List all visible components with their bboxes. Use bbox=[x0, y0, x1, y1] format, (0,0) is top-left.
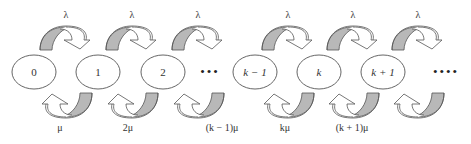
backward-transition-arrow bbox=[329, 93, 379, 118]
state-label: 2 bbox=[160, 66, 166, 78]
backward-transition-arrow bbox=[264, 93, 314, 118]
service-rate-label: kμ bbox=[280, 122, 290, 133]
state-node-sk: k bbox=[297, 55, 341, 89]
state-node-s0: 0 bbox=[12, 55, 56, 89]
service-rate-label: 2μ bbox=[123, 122, 133, 133]
state-node-skp1: k + 1 bbox=[361, 55, 405, 89]
state-label: k + 1 bbox=[371, 66, 394, 78]
arrival-rate-label: λ bbox=[64, 9, 69, 20]
state-node-s1: 1 bbox=[76, 55, 120, 89]
forward-transition-arrow bbox=[172, 26, 222, 50]
state-label: 0 bbox=[31, 66, 37, 78]
state-label: k − 1 bbox=[243, 66, 266, 78]
arrival-rate-label: λ bbox=[196, 9, 201, 20]
ellipsis-indicator: •••• bbox=[433, 64, 459, 79]
backward-transition-arrow bbox=[42, 93, 92, 118]
state-label: 1 bbox=[95, 66, 101, 78]
state-node-skm1: k − 1 bbox=[233, 55, 277, 89]
forward-transition-arrow bbox=[327, 26, 377, 50]
arrival-rate-label: λ bbox=[286, 9, 291, 20]
forward-transition-arrow bbox=[262, 26, 312, 50]
backward-transition-arrow bbox=[108, 93, 158, 118]
diagram-canvas: 012•••k − 1kk + 1••••λλλλλλμ2μ(k − 1)μkμ… bbox=[0, 0, 471, 144]
service-rate-label: (k + 1)μ bbox=[336, 122, 369, 134]
backward-transition-arrow bbox=[394, 93, 444, 118]
forward-transition-arrow bbox=[40, 26, 90, 50]
arrival-rate-label: λ bbox=[351, 9, 356, 20]
ellipsis-indicator: ••• bbox=[200, 64, 220, 79]
service-rate-label: (k − 1)μ bbox=[206, 122, 239, 134]
forward-transition-arrow bbox=[106, 26, 156, 50]
arrival-rate-label: λ bbox=[416, 9, 421, 20]
birth-death-diagram: 012•••k − 1kk + 1••••λλλλλλμ2μ(k − 1)μkμ… bbox=[0, 0, 471, 144]
arrival-rate-label: λ bbox=[130, 9, 135, 20]
backward-transition-arrow bbox=[174, 93, 224, 118]
forward-transition-arrow bbox=[392, 26, 442, 50]
service-rate-label: μ bbox=[57, 122, 62, 133]
state-node-s2: 2 bbox=[141, 55, 185, 89]
